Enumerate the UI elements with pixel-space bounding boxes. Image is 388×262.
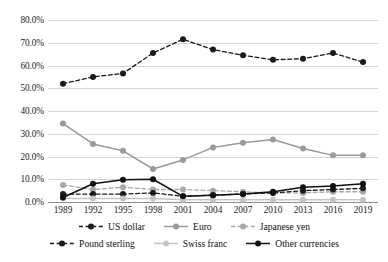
data-point-marker [300,146,306,152]
legend-key-pound-sterling [49,238,75,249]
legend-marker-icon [240,224,246,230]
data-point-marker [300,56,306,62]
series-canvas [48,20,378,202]
x-axis-tick-label: 2007 [234,205,253,215]
y-axis-tick-label: 40.0% [0,106,44,116]
legend-key-japanese-yen [230,221,256,232]
data-point-marker [240,52,246,58]
legend-key-euro [163,221,189,232]
plot-area [48,20,378,202]
y-axis-tick-label: 10.0% [0,174,44,184]
data-point-marker [180,186,186,192]
data-point-marker [300,184,306,190]
legend-item-label: Euro [193,221,212,232]
legend-item-euro[interactable]: Euro [163,221,212,232]
legend-marker-icon [59,241,65,247]
data-point-marker [90,74,96,80]
x-axis-tick-label: 1995 [114,205,133,215]
data-point-marker [330,197,336,203]
data-point-marker [240,140,246,146]
data-point-marker [330,183,336,189]
data-point-marker [180,157,186,163]
data-point-marker [60,182,66,188]
legend-marker-icon [255,241,261,247]
legend-row-top: US dollarEuroJapanese yen [0,218,388,235]
data-point-marker [360,181,366,187]
y-axis-tick-label: 70.0% [0,38,44,48]
data-point-marker [180,193,186,199]
data-point-marker [240,191,246,197]
legend-item-swiss-franc[interactable]: Swiss franc [153,238,228,249]
legend-item-pound-sterling[interactable]: Pound sterling [49,238,135,249]
legend-item-label: Other currencies [275,238,339,249]
data-point-marker [150,176,156,182]
y-axis-tick-label: 20.0% [0,152,44,162]
series-us-dollar [60,36,366,86]
data-point-marker [270,189,276,195]
x-axis-tick-label: 2016 [324,205,343,215]
data-point-marker [330,152,336,158]
data-point-marker [330,50,336,56]
data-point-marker [60,121,66,127]
legend-item-label: Pound sterling [79,238,135,249]
currency-share-line-chart: 0.0%10.0%20.0%30.0%40.0%50.0%60.0%70.0%8… [0,0,388,262]
data-point-marker [60,194,66,200]
data-point-marker [120,70,126,76]
x-axis-tick-label: 2013 [294,205,313,215]
data-point-marker [90,181,96,187]
x-axis-tick-label: 2004 [204,205,223,215]
data-point-marker [270,197,276,203]
data-point-marker [90,141,96,147]
legend-key-other-currencies [245,238,271,249]
data-point-marker [120,177,126,183]
legend-item-japanese-yen[interactable]: Japanese yen [230,221,310,232]
x-axis-tick-label: 2019 [354,205,373,215]
x-axis-tick-label: 2010 [264,205,283,215]
series-euro [60,121,366,172]
data-point-marker [360,152,366,158]
data-point-marker [150,196,156,202]
legend-item-label: US dollar [108,221,145,232]
x-axis-tick-label: 1989 [54,205,73,215]
data-point-marker [60,81,66,87]
y-axis-tick-label: 0.0% [0,197,44,207]
data-point-marker [120,196,126,202]
legend-item-other-currencies[interactable]: Other currencies [245,238,339,249]
legend-item-label: Japanese yen [260,221,310,232]
y-axis-tick-label: 30.0% [0,129,44,139]
data-point-marker [360,197,366,203]
y-axis-tick-label: 50.0% [0,83,44,93]
chart-legend: US dollarEuroJapanese yen Pound sterling… [0,218,388,252]
legend-key-swiss-franc [153,238,179,249]
legend-marker-icon [163,241,169,247]
data-point-marker [180,36,186,42]
data-point-marker [150,166,156,172]
legend-key-us-dollar [78,221,104,232]
series-line [63,39,363,83]
data-point-marker [210,192,216,198]
data-point-marker [300,197,306,203]
legend-item-us-dollar[interactable]: US dollar [78,221,145,232]
data-point-marker [210,47,216,53]
data-point-marker [120,148,126,154]
x-axis-tick-label: 1998 [144,205,163,215]
data-point-marker [150,190,156,196]
x-axis-tick-label: 2001 [174,205,193,215]
legend-row-bottom: Pound sterlingSwiss francOther currencie… [0,235,388,252]
data-point-marker [270,57,276,63]
data-point-marker [120,184,126,190]
data-point-marker [90,196,96,202]
data-point-marker [240,197,246,203]
x-axis-tick-label: 1992 [84,205,103,215]
legend-marker-icon [173,224,179,230]
y-axis-tick-label: 60.0% [0,61,44,71]
data-point-marker [210,144,216,150]
y-axis-tick-label: 80.0% [0,15,44,25]
legend-marker-icon [88,224,94,230]
data-point-marker [360,59,366,65]
legend-item-label: Swiss franc [183,238,228,249]
data-point-marker [150,50,156,56]
data-point-marker [270,136,276,142]
